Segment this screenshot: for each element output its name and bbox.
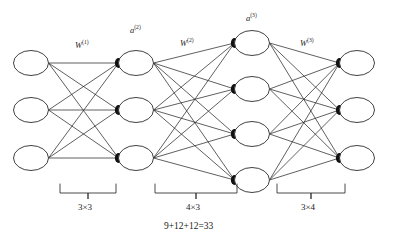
edge-group-w1 (49, 63, 119, 158)
edge-line (154, 110, 235, 134)
edge-line (154, 63, 235, 180)
node-ellipse (235, 122, 270, 147)
node-ellipse (235, 168, 270, 193)
edge-line (154, 134, 235, 158)
label-activation-2: a(2) (130, 25, 141, 34)
label-activation-3-sup: (3) (250, 12, 257, 18)
node-ellipse (119, 146, 154, 171)
edge-line (270, 110, 340, 180)
label-activation-3: a(3) (246, 13, 257, 22)
edge-line (154, 63, 235, 89)
node-ellipse (14, 98, 49, 123)
brace-w3 (277, 184, 345, 199)
node-ellipse (340, 51, 375, 76)
edge-group-w2 (154, 43, 235, 180)
brace-w2 (155, 184, 237, 199)
label-weight-2: W(2) (180, 38, 194, 47)
label-weight-3: W(3) (300, 38, 314, 47)
edge-line (154, 110, 235, 180)
node-ellipse (14, 146, 49, 171)
node-ellipse (119, 51, 154, 76)
label-dimension-2: 4×3 (186, 203, 200, 212)
label-dimension-3: 3×4 (301, 203, 315, 212)
layer-hidden-1-nodes (119, 51, 154, 171)
edge-line (270, 63, 340, 89)
edge-group-w3 (270, 43, 340, 180)
label-weight-2-sup: (2) (187, 37, 194, 43)
label-dimension-1: 3×3 (78, 203, 92, 212)
node-ellipse (235, 31, 270, 56)
label-weight-1: W(1) (75, 40, 89, 49)
label-weight-3-sup: (3) (307, 37, 314, 43)
edge-line (270, 134, 340, 158)
layer-hidden-2-nodes (235, 31, 270, 193)
node-ellipse (119, 98, 154, 123)
node-ellipse (235, 77, 270, 102)
label-activation-2-sup: (2) (134, 24, 141, 30)
edge-line (270, 63, 340, 180)
layer-input-nodes (14, 51, 49, 171)
node-ellipse (340, 146, 375, 171)
neural-network-figure: W(1) W(2) W(3) a(2) a(3) 3×3 4×3 3×4 9+1… (0, 0, 399, 242)
brace-w1 (60, 184, 116, 199)
layer-output-nodes (340, 51, 375, 171)
label-total-equation: 9+12+12=33 (164, 222, 213, 232)
node-ellipse (14, 51, 49, 76)
brace-group (60, 184, 345, 199)
label-weight-1-sup: (1) (82, 39, 89, 45)
edge-line (154, 158, 235, 180)
node-ellipse (340, 98, 375, 123)
